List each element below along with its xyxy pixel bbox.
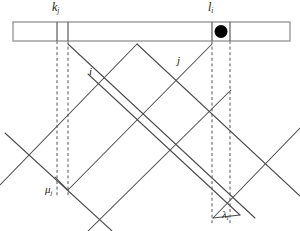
strip-outline xyxy=(13,22,290,41)
strip-descending-line-3 xyxy=(88,74,240,215)
guide-lines xyxy=(57,41,230,224)
label-j: j xyxy=(177,55,180,68)
label-lambda: λi xyxy=(222,209,229,222)
strip-descending-line-2 xyxy=(68,44,255,218)
figure-canvas: kj li i j μj λi xyxy=(0,0,300,231)
strip-descending-line-4 xyxy=(137,44,300,196)
label-i: i xyxy=(89,66,92,79)
strip-descending-line-1 xyxy=(5,133,112,231)
strip-ascending xyxy=(0,44,300,231)
strip-ascending-line-3 xyxy=(88,90,231,231)
label-l: li xyxy=(208,1,213,15)
strip-ascending-line-4 xyxy=(213,128,300,218)
label-mu: μj xyxy=(45,184,52,197)
strip-descending xyxy=(5,44,300,231)
label-k: kj xyxy=(52,1,59,15)
occupied-cell-marker xyxy=(215,25,228,38)
horizontal-strip xyxy=(13,22,290,41)
